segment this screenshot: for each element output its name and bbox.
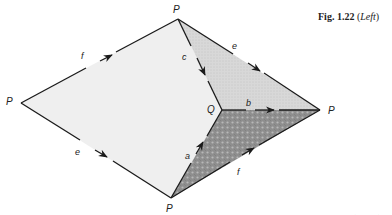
figure-caption: Fig. 1.22 (Left) — [318, 11, 379, 23]
cut-off-caption: Fig. 1.23 (Right) — [314, 213, 381, 215]
vertex-label-p-bottom: P — [166, 203, 173, 214]
vertex-label-p-left: P — [6, 96, 13, 107]
edge-label-b: b — [246, 98, 251, 108]
edge-label-c: c — [182, 52, 187, 62]
edge-label-a: a — [185, 151, 190, 161]
edge-label-f-bottom-right: f — [237, 167, 241, 177]
edge-label-e-bottom-left: e — [75, 147, 80, 157]
vertex-label-q: Q — [207, 104, 215, 115]
caption-number: Fig. 1.22 — [318, 11, 354, 22]
surface-identification-diagram: P P P P Q f e e c b a f Fig. 1.22 (Left)… — [0, 0, 392, 215]
vertex-label-p-top: P — [173, 4, 180, 15]
vertex-label-p-right: P — [328, 105, 335, 116]
caption-side: Left — [359, 11, 376, 22]
caption-close-paren: ) — [376, 11, 379, 23]
edge-label-e-top-right: e — [232, 41, 237, 51]
edge-label-f-top-left: f — [81, 51, 85, 61]
